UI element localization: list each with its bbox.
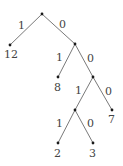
edge-label: 1 [56, 117, 63, 130]
internal-node-1 [74, 43, 77, 46]
edge-label: 0 [87, 117, 94, 130]
internal-node-2 [92, 76, 95, 79]
leaf-label-2: 2 [54, 147, 61, 160]
leaf-label-12: 12 [4, 48, 18, 61]
internal-node-3 [74, 109, 77, 112]
leaf-label-7: 7 [108, 113, 115, 126]
leaf-node-3 [92, 142, 95, 145]
edge-label: 0 [59, 18, 66, 31]
leaf-label-8: 8 [54, 81, 61, 94]
edge-label: 1 [75, 84, 82, 97]
edge-label: 1 [56, 51, 63, 64]
leaf-node-2 [57, 142, 60, 145]
code-tree-diagram: 1 0 1 0 1 0 1 0 12 8 7 2 3 [0, 0, 123, 166]
root-node [41, 13, 44, 16]
edge-label: 0 [87, 52, 94, 65]
edge-root-12 [10, 14, 42, 45]
leaf-labels: 12 8 7 2 3 [4, 48, 115, 160]
edge-label: 1 [18, 19, 25, 32]
leaf-node-7 [111, 109, 114, 112]
leaf-label-3: 3 [89, 147, 96, 160]
edge-label: 0 [105, 85, 112, 98]
leaf-node-8 [57, 76, 60, 79]
leaf-node-12 [9, 44, 12, 47]
